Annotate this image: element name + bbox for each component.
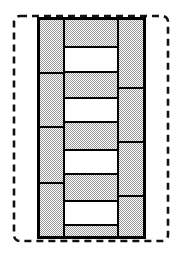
left-leaf-block-1 [38, 18, 64, 73]
right-leaf-column [118, 18, 145, 238]
center-leaf-void-1 [64, 47, 118, 72]
center-leaf-block-2 [64, 72, 118, 98]
left-leaf-column [38, 18, 64, 238]
center-leaf-block-3 [64, 122, 118, 150]
right-leaf-block-2 [118, 88, 145, 142]
masonry-section-diagram: Masonry Bond Section Diagram Elevation o… [0, 0, 183, 260]
center-leaf-block-4 [64, 174, 118, 201]
center-leaf-block-5 [64, 225, 118, 238]
center-leaf-void-3 [64, 150, 118, 174]
right-leaf-block-4 [118, 196, 145, 238]
left-leaf-block-3 [38, 127, 64, 183]
center-leaf-void-2 [64, 98, 118, 122]
right-leaf-block-3 [118, 142, 145, 196]
center-leaf-void-4 [64, 201, 118, 225]
left-leaf-block-4 [38, 183, 64, 238]
center-leaf-column [64, 18, 118, 238]
diagram-canvas: Masonry Bond Section Diagram Elevation o… [0, 0, 183, 260]
center-leaf-block-1 [64, 18, 118, 47]
right-leaf-block-1 [118, 18, 145, 88]
left-leaf-block-2 [38, 73, 64, 127]
